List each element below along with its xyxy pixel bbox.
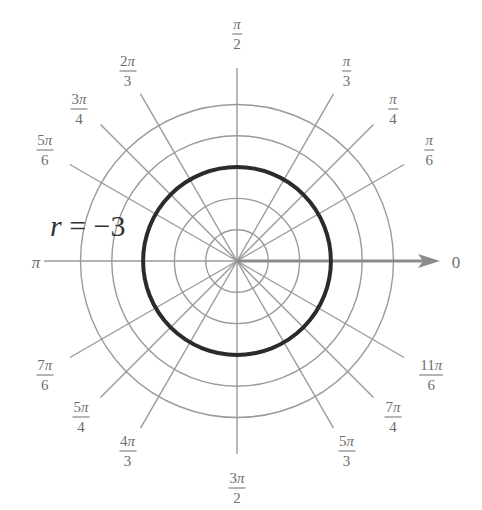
polar-diagram: r = −3 π2π3π4π62π33π45π6π7π65π44π33π25π3… xyxy=(0,0,482,510)
angle-label: 3π4 xyxy=(70,91,87,126)
fraction: 3π2 xyxy=(228,471,245,506)
fraction-numerator: 3π xyxy=(228,471,245,488)
equation-label: r = −3 xyxy=(50,209,126,243)
fraction: 7π4 xyxy=(385,400,402,435)
equation-value: −3 xyxy=(94,209,126,242)
fraction-denominator: 3 xyxy=(119,70,136,88)
fraction-numerator: π xyxy=(424,132,434,149)
angle-label: 3π2 xyxy=(228,471,245,506)
fraction-numerator: 4π xyxy=(119,434,136,451)
angle-label: 4π3 xyxy=(119,434,136,469)
angle-label: π2 xyxy=(232,17,242,52)
fraction: π2 xyxy=(232,17,242,52)
fraction: 5π3 xyxy=(338,434,355,469)
equation-operator: = xyxy=(69,209,86,242)
grid-spoke xyxy=(237,261,374,398)
fraction: 5π6 xyxy=(36,132,53,167)
angle-label: π6 xyxy=(424,132,434,167)
fraction-numerator: 2π xyxy=(119,53,136,70)
grid-spoke xyxy=(141,261,238,428)
grid-spoke xyxy=(70,261,237,358)
fraction-denominator: 6 xyxy=(419,374,443,392)
grid-spoke xyxy=(237,261,404,358)
fraction-numerator: 5π xyxy=(36,132,53,149)
fraction: 2π3 xyxy=(119,53,136,88)
fraction-denominator: 6 xyxy=(36,149,53,167)
angle-label: 5π3 xyxy=(338,434,355,469)
fraction-denominator: 4 xyxy=(385,417,402,435)
fraction: 4π3 xyxy=(119,434,136,469)
fraction: 5π4 xyxy=(72,400,89,435)
fraction: π4 xyxy=(388,91,398,126)
fraction-numerator: 3π xyxy=(70,91,87,108)
fraction-numerator: π xyxy=(232,17,242,34)
fraction-numerator: 7π xyxy=(36,357,53,374)
polar-axis-zero-label: 0 xyxy=(452,254,461,271)
angle-label: 5π4 xyxy=(72,400,89,435)
fraction-denominator: 2 xyxy=(232,34,242,52)
angle-label: 7π4 xyxy=(385,400,402,435)
fraction: 3π4 xyxy=(70,91,87,126)
angle-label: 2π3 xyxy=(119,53,136,88)
fraction-denominator: 4 xyxy=(72,417,89,435)
fraction-denominator: 6 xyxy=(424,149,434,167)
grid-spoke xyxy=(237,165,404,262)
fraction-numerator: 5π xyxy=(338,434,355,451)
angle-label: 7π6 xyxy=(36,357,53,392)
fraction-denominator: 3 xyxy=(119,451,136,469)
fraction-denominator: 3 xyxy=(338,451,355,469)
fraction: 7π6 xyxy=(36,357,53,392)
equation-variable: r xyxy=(50,209,62,242)
fraction-numerator: 5π xyxy=(72,400,89,417)
angle-label: π4 xyxy=(388,91,398,126)
fraction-numerator: π xyxy=(388,91,398,108)
fraction-denominator: 4 xyxy=(70,108,87,126)
grid-spoke xyxy=(237,261,334,428)
grid-spoke xyxy=(141,94,238,261)
angle-label: π3 xyxy=(342,53,352,88)
fraction-denominator: 2 xyxy=(228,488,245,506)
fraction-numerator: π xyxy=(342,53,352,70)
fraction-denominator: 6 xyxy=(36,374,53,392)
angle-label: 11π6 xyxy=(419,357,443,392)
angle-label: π xyxy=(32,254,41,271)
grid-spoke xyxy=(237,94,334,261)
angle-label: 5π6 xyxy=(36,132,53,167)
grid-spoke xyxy=(237,125,374,262)
fraction-denominator: 3 xyxy=(342,70,352,88)
fraction: π6 xyxy=(424,132,434,167)
fraction: 11π6 xyxy=(419,357,443,392)
fraction-numerator: 7π xyxy=(385,400,402,417)
fraction-denominator: 4 xyxy=(388,108,398,126)
grid-spoke xyxy=(101,261,238,398)
fraction: π3 xyxy=(342,53,352,88)
fraction-numerator: 11π xyxy=(419,357,443,374)
